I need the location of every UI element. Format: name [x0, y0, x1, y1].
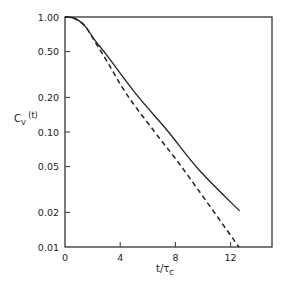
y-tick-label: 1.00 — [38, 12, 59, 23]
chart: 1.000.500.200.100.050.020.01 04812 CV (t… — [0, 0, 285, 287]
x-tick-label: 4 — [117, 252, 123, 263]
y-tick-label: 0.02 — [38, 207, 59, 218]
series-solid-line — [65, 17, 240, 211]
x-tick-label: 8 — [172, 252, 178, 263]
y-tick-label: 0.05 — [38, 161, 59, 172]
x-axis-ticks: 04812 — [62, 242, 237, 263]
y-axis-label: CV (t) — [14, 111, 38, 127]
x-axis-label: t/τC — [156, 263, 174, 277]
x-tick-label: 12 — [225, 252, 237, 263]
y-tick-label: 0.50 — [38, 46, 59, 57]
y-tick-label: 0.01 — [38, 242, 59, 253]
series-layer — [65, 17, 240, 247]
y-tick-label: 0.10 — [38, 127, 59, 138]
x-tick-label: 0 — [62, 252, 68, 263]
series-dashed-line — [65, 17, 239, 247]
y-tick-label: 0.20 — [38, 92, 59, 103]
